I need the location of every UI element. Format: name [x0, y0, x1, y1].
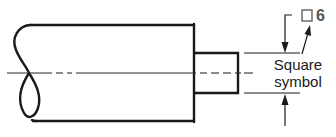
- drawing-canvas: 6 Square symbol: [0, 0, 336, 137]
- annotation-symbol: symbol: [262, 74, 334, 90]
- annotation-square: Square: [262, 57, 334, 73]
- arrowhead-down-icon: [282, 42, 289, 53]
- break-symbol: [14, 25, 39, 117]
- arrowhead-pointer-icon: [305, 25, 312, 36]
- callout-value: 6: [316, 8, 330, 24]
- symbol-pointer: [302, 33, 308, 54]
- square-symbol-icon: [302, 10, 312, 21]
- arrowhead-up-icon: [282, 94, 289, 105]
- dimension-leader-top: [285, 15, 292, 44]
